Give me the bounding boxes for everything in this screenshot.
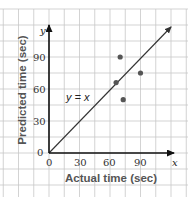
x-axis-title: Actual time (sec) <box>65 172 157 184</box>
y-axis-title: Predicted time (sec) <box>16 35 28 144</box>
data-point <box>138 70 143 75</box>
line-label: y = x <box>65 91 90 103</box>
y-tick-0: 0 <box>37 147 43 158</box>
data-points <box>114 54 144 102</box>
scatter-chart: y x 0 30 60 90 0 30 60 90 Actual time (s… <box>0 0 188 197</box>
y-axis-variable: y <box>39 25 46 36</box>
x-tick-0: 0 <box>46 157 52 168</box>
y-tick-30: 30 <box>33 116 46 127</box>
data-point <box>114 80 119 85</box>
grid <box>0 9 188 197</box>
data-point <box>121 97 126 102</box>
data-point <box>118 54 123 59</box>
x-tick-30: 30 <box>74 157 87 168</box>
y-tick-90: 90 <box>33 52 46 63</box>
x-tick-90: 90 <box>134 157 147 168</box>
x-tick-60: 60 <box>103 157 116 168</box>
y-tick-60: 60 <box>33 84 46 95</box>
x-axis-variable: x <box>172 157 178 168</box>
